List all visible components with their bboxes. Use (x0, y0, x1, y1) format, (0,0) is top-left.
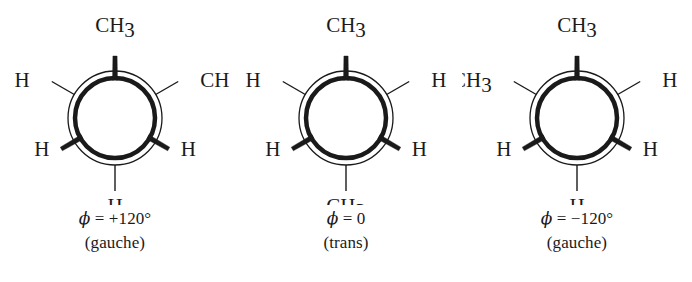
atom-label-h: H (412, 137, 427, 161)
equals-sign: = (338, 209, 356, 228)
back-bond-upper-right (155, 82, 178, 96)
conformation-label: (gauche) (462, 231, 692, 255)
front-carbon-fill (77, 80, 153, 156)
newman-svg: CH3HHCH3HH (462, 0, 692, 205)
newman-diagram-gauche-minus-120: CH3HHCH3HH (462, 0, 692, 205)
atom-label-h: H (643, 137, 658, 161)
newman-projection-figure: HCH3HCH3HHϕ = +120°(gauche)HHCH3CH3HHϕ =… (0, 0, 692, 282)
newman-panel-trans-0: HHCH3CH3HHϕ = 0(trans) (231, 0, 461, 282)
atom-label-ch3: CH3 (95, 13, 135, 42)
panel-caption-trans-0: ϕ = 0(trans) (231, 206, 461, 255)
phi-symbol: ϕ (79, 208, 91, 228)
panel-caption-gauche-minus-120: ϕ = −120°(gauche) (462, 206, 692, 255)
newman-panel-gauche-minus-120: CH3HHCH3HHϕ = −120°(gauche) (462, 0, 692, 282)
atom-label-ch3: CH3 (200, 68, 230, 97)
atom-label-h: H (662, 68, 677, 92)
back-bond-upper-right (386, 82, 409, 96)
atom-label-ch3: CH3 (326, 13, 366, 42)
phi-symbol: ϕ (327, 208, 339, 228)
dihedral-angle-label: ϕ = −120° (462, 206, 692, 231)
newman-diagram-trans-0: HHCH3CH3HH (231, 0, 461, 205)
newman-panel-gauche-plus-120: HCH3HCH3HHϕ = +120°(gauche) (0, 0, 230, 282)
dihedral-angle-value: 0 (357, 209, 366, 228)
back-bond-upper-left (514, 82, 537, 96)
newman-svg: HCH3HCH3HH (0, 0, 230, 205)
atom-label-h: H (246, 68, 261, 92)
atom-label-h: H (15, 68, 30, 92)
atom-label-h: H (34, 137, 49, 161)
front-carbon-fill (539, 80, 615, 156)
atom-label-h: H (181, 137, 196, 161)
dihedral-angle-label: ϕ = 0 (231, 206, 461, 231)
back-bond-upper-left (52, 82, 75, 96)
atom-label-ch3: CH3 (326, 194, 366, 205)
atom-label-h: H (431, 68, 446, 92)
newman-svg: HHCH3CH3HH (231, 0, 461, 205)
atom-label-h: H (496, 137, 511, 161)
equals-sign: = (90, 209, 108, 228)
dihedral-angle-value: +120° (109, 209, 151, 228)
front-carbon-fill (308, 80, 384, 156)
atom-label-h: H (569, 194, 584, 205)
dihedral-angle-value: −120° (571, 209, 613, 228)
atom-label-h: H (265, 137, 280, 161)
back-bond-upper-right (617, 82, 640, 96)
atom-label-ch3: CH3 (557, 13, 597, 42)
atom-label-h: H (107, 194, 122, 205)
conformation-label: (gauche) (0, 231, 230, 255)
back-bond-upper-left (283, 82, 306, 96)
phi-symbol: ϕ (541, 208, 553, 228)
dihedral-angle-label: ϕ = +120° (0, 206, 230, 231)
newman-diagram-gauche-plus-120: HCH3HCH3HH (0, 0, 230, 205)
panel-caption-gauche-plus-120: ϕ = +120°(gauche) (0, 206, 230, 255)
equals-sign: = (552, 209, 570, 228)
conformation-label: (trans) (231, 231, 461, 255)
atom-label-ch3: CH3 (462, 68, 492, 97)
